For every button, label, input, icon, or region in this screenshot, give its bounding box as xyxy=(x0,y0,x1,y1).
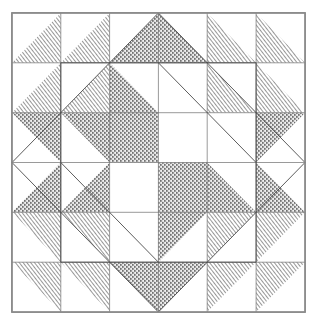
unit-r2-c2-square xyxy=(110,113,159,163)
unit-r2-c1 xyxy=(61,113,110,163)
unit-r1-c2 xyxy=(110,63,159,113)
unit-r2-c3-square xyxy=(158,113,207,163)
unit-r3-c3-square xyxy=(158,163,207,213)
unit-r4-c5 xyxy=(256,212,305,262)
quilt-block-svg xyxy=(0,0,316,321)
unit-r0-c5 xyxy=(256,13,305,63)
quilt-block-figure xyxy=(0,0,316,321)
unit-r0-c1 xyxy=(61,13,110,63)
unit-r2-c3 xyxy=(158,113,207,163)
unit-r1-c5 xyxy=(256,63,305,113)
unit-r3-c3 xyxy=(158,163,207,213)
unit-r4-c0 xyxy=(12,212,61,262)
unit-r2-c2 xyxy=(110,113,159,163)
unit-r3-c2-square xyxy=(110,163,159,213)
unit-r5-c4 xyxy=(207,262,256,312)
unit-r3-c4 xyxy=(207,163,256,213)
unit-r1-c0 xyxy=(12,63,61,113)
unit-r5-c0 xyxy=(12,262,61,312)
unit-r0-c4 xyxy=(207,13,256,63)
unit-r3-c2 xyxy=(110,163,159,213)
unit-r5-c5 xyxy=(256,262,305,312)
unit-r0-c0 xyxy=(12,13,61,63)
unit-r5-c1 xyxy=(61,262,110,312)
unit-r4-c3 xyxy=(158,212,207,262)
